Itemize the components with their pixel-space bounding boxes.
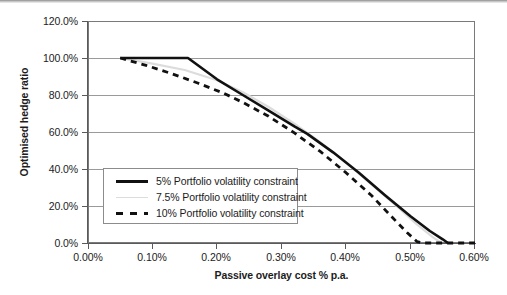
- x-tick-0.40: [345, 244, 346, 249]
- x-tick-label-0.50: 0.50%: [380, 251, 440, 263]
- x-tick-label-0.10: 0.10%: [122, 251, 182, 263]
- legend-entry-10pct: 10% Portfolio volatility constraint: [104, 205, 297, 221]
- y-tick-100: [82, 58, 88, 59]
- y-tick-20: [82, 206, 88, 207]
- x-tick-0.50: [410, 244, 411, 249]
- x-tick-label-0.40: 0.40%: [315, 251, 375, 263]
- y-axis-title: Optimised hedge ratio: [18, 42, 30, 202]
- gridline-60: [89, 132, 474, 133]
- y-tick-120: [82, 21, 88, 22]
- y-tick-label-120: 120.0%: [10, 15, 78, 27]
- legend-label-75pct: 7.5% Portfolio volatility constraint: [156, 191, 306, 203]
- legend-key-solid-black-icon: [114, 175, 150, 187]
- x-tick-label-0.20: 0.20%: [186, 251, 246, 263]
- legend-entry-5pct: 5% Portfolio volatility constraint: [104, 173, 297, 189]
- x-axis-line: [88, 243, 476, 244]
- x-axis-title: Passive overlay cost % p.a.: [88, 269, 475, 281]
- chart-legend: 5% Portfolio volatility constraint 7.5% …: [103, 168, 298, 224]
- y-tick-80: [82, 95, 88, 96]
- legend-label-10pct: 10% Portfolio volatility constraint: [156, 207, 304, 219]
- gridline-100: [89, 58, 474, 59]
- y-tick-60: [82, 132, 88, 133]
- legend-entry-75pct: 7.5% Portfolio volatility constraint: [104, 189, 297, 205]
- legend-label-5pct: 5% Portfolio volatility constraint: [156, 175, 298, 187]
- x-tick-label-0.30: 0.30%: [251, 251, 311, 263]
- legend-key-dashed-black-icon: [114, 207, 150, 219]
- x-tick-0.00: [88, 244, 89, 249]
- x-tick-0.10: [152, 244, 153, 249]
- legend-key-solid-gray-icon: [114, 191, 150, 203]
- x-tick-0.30: [281, 244, 282, 249]
- x-tick-label-0.60: 0.60%: [444, 251, 504, 263]
- gridline-80: [89, 95, 474, 96]
- x-tick-0.60: [474, 244, 475, 249]
- x-tick-0.20: [216, 244, 217, 249]
- y-tick-40: [82, 169, 88, 170]
- y-tick-label-0: 0.0%: [10, 237, 78, 249]
- x-tick-label-0.00: 0.00%: [58, 251, 118, 263]
- chart-root: 120.0% 100.0% 80.0% 60.0% 40.0% 20.0% 0.…: [0, 0, 507, 295]
